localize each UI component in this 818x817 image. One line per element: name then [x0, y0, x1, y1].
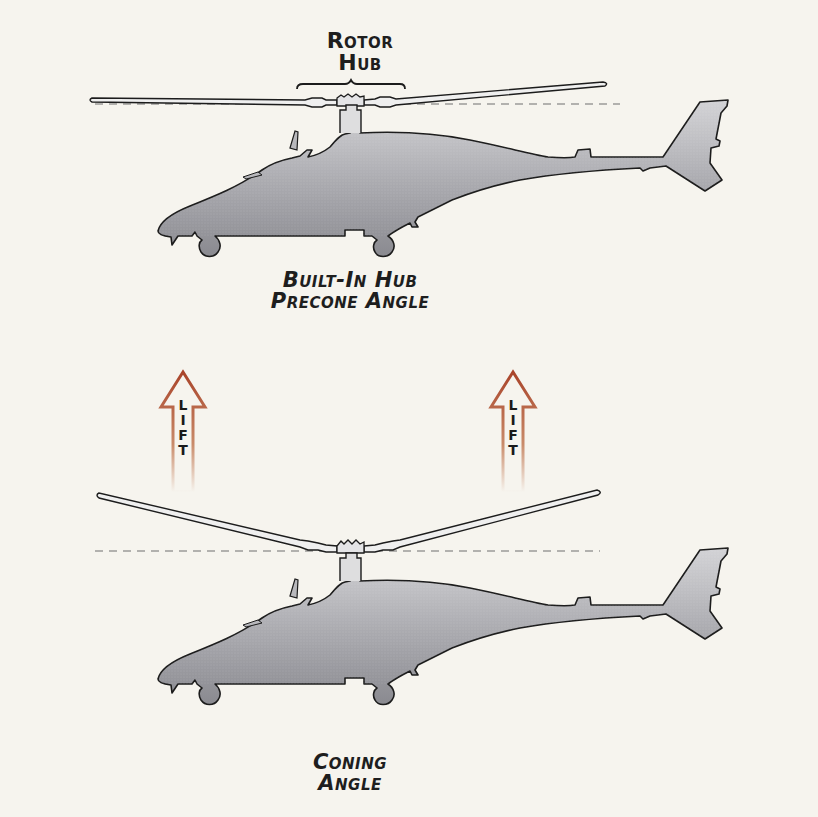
diagram-canvas: Rotor Hub Built-In Hub Precone Angle L I… [0, 0, 818, 817]
rotor-hub [337, 94, 364, 106]
left-rotor-blade [97, 493, 337, 552]
right-rotor-blade [364, 82, 607, 107]
right-rotor-blade [364, 490, 600, 552]
lift-letter: I [173, 413, 193, 428]
precone-caption-line-1: Built-In Hub [250, 270, 450, 291]
rotor-hub-bracket [297, 80, 405, 89]
top-rotor-blades [90, 82, 607, 107]
lift-label-right: L I F T [503, 398, 523, 458]
lift-letter: F [503, 428, 523, 443]
top-helicopter [90, 80, 728, 257]
coning-caption-line-1: Coning [280, 752, 420, 773]
precone-angle-caption: Built-In Hub Precone Angle [250, 270, 450, 313]
lift-letter: T [503, 443, 523, 458]
bottom-fuselage [158, 548, 728, 705]
bottom-helicopter [95, 490, 728, 705]
coning-angle-caption: Coning Angle [280, 752, 420, 795]
lift-letter: L [173, 398, 193, 413]
lift-letter: I [503, 413, 523, 428]
rotor-hub-label-line-1: Rotor [300, 30, 420, 52]
bottom-rotor-blades [97, 490, 600, 553]
top-fuselage [158, 100, 728, 257]
coning-caption-line-2: Angle [280, 773, 420, 794]
diagram-svg [0, 0, 818, 817]
lift-label-left: L I F T [173, 398, 193, 458]
lift-letter: L [503, 398, 523, 413]
precone-caption-line-2: Precone Angle [250, 291, 450, 312]
left-rotor-blade [90, 98, 337, 107]
rotor-hub [337, 540, 364, 553]
lift-letter: F [173, 428, 193, 443]
rotor-hub-label-line-2: Hub [300, 52, 420, 74]
rotor-hub-label: Rotor Hub [300, 30, 420, 75]
lift-letter: T [173, 443, 193, 458]
